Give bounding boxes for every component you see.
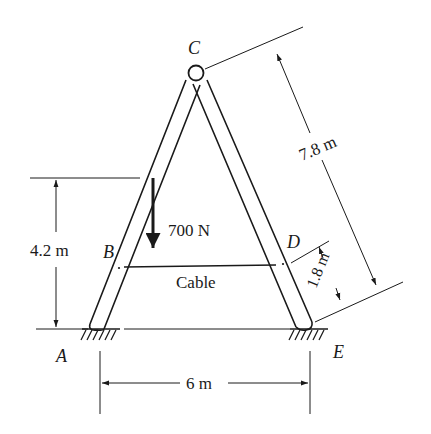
support-e-icon [289, 329, 328, 340]
member-ce [193, 80, 312, 330]
label-c: C [188, 38, 201, 58]
diagram-canvas: C B D A E 700 N Cable 4.2 m 6 m 7.8 m 1.… [0, 0, 431, 434]
pin-c-icon [189, 66, 204, 81]
point-b-dot [118, 267, 120, 269]
label-a: A [55, 346, 68, 366]
label-d: D [286, 232, 300, 252]
label-b: B [103, 242, 114, 262]
dim-label-1-8m: 1.8 m [303, 249, 333, 290]
load-label: 700 N [168, 221, 210, 240]
dim-label-6m: 6 m [186, 374, 212, 393]
dimension-7-8m [205, 27, 403, 322]
label-e: E [332, 342, 344, 362]
member-ac [90, 80, 200, 330]
cable-label: Cable [176, 273, 216, 292]
point-d-dot [282, 263, 284, 265]
dim-label-4-2m: 4.2 m [30, 241, 69, 260]
dim-label-7-8m: 7.8 m [296, 132, 339, 165]
cable-line [124, 265, 276, 267]
a-frame-diagram: C B D A E 700 N Cable 4.2 m 6 m 7.8 m 1.… [0, 0, 431, 434]
